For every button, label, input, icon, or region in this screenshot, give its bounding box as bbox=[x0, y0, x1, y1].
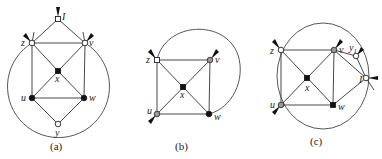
panel-b: z v x u w (b) bbox=[145, 29, 240, 153]
label-v: v bbox=[89, 37, 94, 48]
vertex-z bbox=[155, 58, 160, 63]
panel-a: I z v x u w y (a) bbox=[7, 7, 109, 153]
outer-circle-c bbox=[277, 23, 369, 129]
label-x: x bbox=[54, 73, 60, 84]
vertex-w bbox=[206, 111, 212, 117]
vertex-x bbox=[305, 76, 310, 81]
label-y: y bbox=[54, 127, 60, 138]
wedge-icon bbox=[368, 76, 378, 80]
label-x: x bbox=[304, 82, 310, 93]
label-z: z bbox=[20, 37, 25, 48]
vertex-v bbox=[82, 40, 88, 46]
label-I: I bbox=[358, 74, 363, 85]
label-v: v bbox=[339, 44, 344, 55]
vertex-y bbox=[55, 121, 61, 127]
panel-c: z v y1 I x u w (c) bbox=[269, 23, 378, 148]
caption-a: (a) bbox=[50, 140, 63, 153]
wedge-icon bbox=[56, 7, 60, 17]
vertex-I bbox=[56, 17, 61, 22]
label-w: w bbox=[214, 111, 221, 122]
label-w: w bbox=[338, 101, 345, 112]
caption-b: (b) bbox=[175, 140, 188, 153]
label-v: v bbox=[215, 54, 220, 65]
label-y1: y1 bbox=[348, 42, 357, 55]
label-z: z bbox=[269, 45, 274, 56]
label-u: u bbox=[270, 99, 275, 110]
vertex-z bbox=[29, 40, 35, 46]
vertex-w bbox=[81, 95, 87, 101]
vertex-w bbox=[331, 103, 336, 108]
label-w: w bbox=[89, 92, 96, 103]
vertex-u bbox=[29, 95, 35, 101]
vertex-z bbox=[278, 47, 284, 53]
caption-c: (c) bbox=[310, 135, 323, 148]
label-z: z bbox=[145, 54, 150, 65]
label-u: u bbox=[21, 92, 26, 103]
label-I: I bbox=[61, 11, 66, 22]
vertex-v bbox=[207, 57, 213, 63]
vertex-I bbox=[363, 75, 369, 81]
vertex-v bbox=[331, 47, 337, 53]
vertex-u bbox=[154, 111, 160, 117]
label-u: u bbox=[147, 105, 152, 116]
label-x: x bbox=[179, 89, 185, 100]
figure: I z v x u w y (a) z v x u w (b) bbox=[0, 0, 382, 159]
vertex-u bbox=[278, 102, 284, 108]
